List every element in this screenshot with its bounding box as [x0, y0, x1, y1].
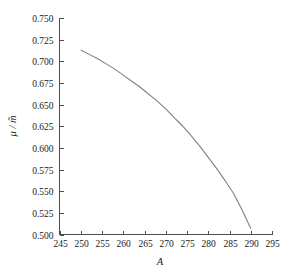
- y-tick-label: 0.525: [32, 209, 54, 219]
- x-tick-label: 280: [201, 239, 216, 249]
- x-tick-label: 285: [223, 239, 238, 249]
- x-tick-label: 260: [116, 239, 131, 249]
- x-tick-label: 270: [159, 239, 174, 249]
- y-tick-label: 0.625: [32, 122, 54, 132]
- x-tick-label: 265: [138, 239, 153, 249]
- chart-figure: 0.5000.5250.5500.5750.6000.6250.6500.675…: [0, 0, 283, 275]
- y-tick-label: 0.550: [32, 187, 54, 197]
- x-tick-label: 290: [244, 239, 259, 249]
- x-tick-label: 275: [180, 239, 195, 249]
- y-tick-label: 0.750: [32, 14, 54, 24]
- x-axis-tick-labels: 245250255260265270275280285290295: [53, 239, 280, 249]
- x-tick-label: 295: [265, 239, 280, 249]
- y-tick-label: 0.700: [32, 57, 54, 67]
- y-tick-label: 0.675: [32, 79, 54, 89]
- y-tick-label: 0.500: [32, 231, 54, 241]
- x-tick-label: 255: [95, 239, 110, 249]
- y-tick-label: 0.725: [32, 36, 54, 46]
- y-tick-label: 0.600: [32, 144, 54, 154]
- x-axis-title: A: [156, 256, 164, 267]
- y-tick-label: 0.575: [32, 166, 54, 176]
- y-axis-title: μ / m̃: [7, 115, 18, 137]
- x-tick-label: 245: [53, 239, 68, 249]
- x-tick-label: 250: [74, 239, 89, 249]
- line-chart: 0.5000.5250.5500.5750.6000.6250.6500.675…: [0, 0, 283, 275]
- y-tick-label: 0.650: [32, 101, 54, 111]
